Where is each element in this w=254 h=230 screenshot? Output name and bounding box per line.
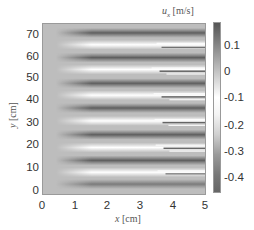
x-axis-label-var: x xyxy=(115,213,119,224)
colorbar-tick-0: 0 xyxy=(224,66,230,78)
colorbar-label-unit: [m/s] xyxy=(173,5,194,16)
x-axis-label-unit: [cm] xyxy=(122,213,141,224)
y-axis-label-unit: [cm] xyxy=(7,102,18,121)
colorbar-tick-neg0.2: -0.2 xyxy=(224,120,244,132)
xtick-1: 1 xyxy=(65,200,85,212)
ytick-0: 0 xyxy=(33,185,39,197)
heatmap-image xyxy=(43,24,205,194)
ytick-50: 50 xyxy=(26,72,39,84)
figure: ux [m/s] 70 60 50 40 30 20 10 0 y [cm] xyxy=(0,0,254,230)
y-axis-label: y [cm] xyxy=(0,108,32,122)
ytick-40: 40 xyxy=(26,94,39,106)
ytick-10: 10 xyxy=(26,162,39,174)
colorbar-label-sub: x xyxy=(167,11,170,19)
ytick-70: 70 xyxy=(26,29,39,41)
x-axis-label: x [cm] xyxy=(98,213,158,224)
colorbar-tick-neg0.3: -0.3 xyxy=(224,146,244,158)
colorbar-tick-neg0.1: -0.1 xyxy=(224,92,244,104)
xtick-4: 4 xyxy=(163,200,183,212)
heatmap-plot-area xyxy=(42,23,206,195)
colorbar-tick-0.1: 0.1 xyxy=(224,40,240,52)
colorbar-tick-neg0.4: -0.4 xyxy=(224,172,244,184)
xtick-5: 5 xyxy=(195,200,215,212)
ytick-20: 20 xyxy=(26,139,39,151)
colorbar xyxy=(213,22,221,193)
y-axis-label-var: y xyxy=(7,123,18,127)
xtick-3: 3 xyxy=(130,200,150,212)
colorbar-label: ux [m/s] xyxy=(162,5,194,19)
xtick-2: 2 xyxy=(97,200,117,212)
xtick-0: 0 xyxy=(32,200,52,212)
ytick-60: 60 xyxy=(26,51,39,63)
